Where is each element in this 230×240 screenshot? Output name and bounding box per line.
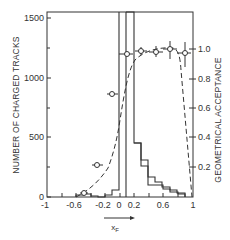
y2-tick-0.2: 0.2 [198,162,211,172]
x-tick-neg0.6: -0.6 [66,200,82,210]
y2-tick-0.4: 0.4 [198,132,211,142]
chart-svg: 0 500 1000 1500 NUMBER OF CHARGED TRACKS… [0,0,230,240]
acceptance-points [80,41,191,196]
y2-tick-0.6: 0.6 [198,103,211,113]
x-axis-title: xF [111,223,119,233]
plot-frame [47,12,193,197]
y-tick-1000: 1000 [24,73,44,83]
x-tick-0.2: 0.2 [128,200,141,210]
y2-tick-0.8: 0.8 [198,74,211,84]
y-tick-1500: 1500 [24,13,44,23]
x-tick-neg0.2: -0.2 [95,200,111,210]
histogram-steps [134,143,185,197]
x-tick-0: 0 [116,200,121,210]
x-tick-1: 1 [190,200,195,210]
histogram [76,12,185,197]
x-tick-neg1: -1 [41,200,49,210]
y-axis-title: NUMBER OF CHARGED TRACKS [11,36,21,173]
y-tick-500: 500 [29,132,44,142]
bottom-axis-labels: -1 -0.6 -0.2 0 0.2 0.6 1 [41,200,196,210]
y2-axis-title: GEOMETRICAL ACCEPTANCE [213,57,223,182]
y2-tick-1.0: 1.0 [198,44,211,54]
left-axis [47,18,51,197]
left-axis-labels: 0 500 1000 1500 [24,13,44,202]
x-tick-0.6: 0.6 [157,200,170,210]
x-axis-arrow [104,216,135,220]
right-axis-labels: 0.2 0.4 0.6 0.8 1.0 [198,44,211,172]
